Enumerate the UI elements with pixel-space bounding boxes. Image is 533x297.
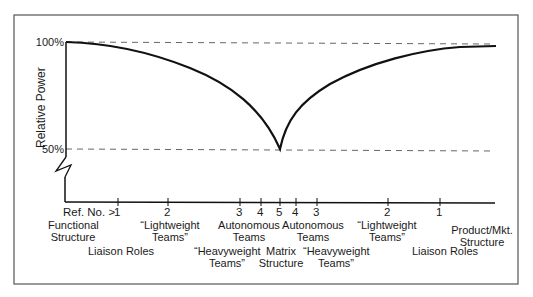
y-axis-break-icon [56, 157, 71, 177]
label-functional-structure: Functional Structure [48, 219, 98, 243]
label-heavyweight-teams-right: “Heavyweight Teams” [303, 245, 369, 269]
y-tick-100: 100% [14, 36, 64, 48]
tick-label-2-left: 2 [164, 206, 170, 218]
label-heavyweight-teams-left: “Heavyweight Teams” [194, 245, 260, 269]
label-liaison-roles-right: Liaison Roles [412, 245, 478, 257]
tick-label-3-right: 3 [313, 206, 319, 218]
relative-power-curve [66, 42, 496, 149]
tick-label-2-right: 2 [384, 206, 390, 218]
label-lightweight-teams-right: “Lightweight Teams” [357, 219, 417, 243]
y-axis-label: Relative Power [34, 67, 48, 148]
tick-label-1-left: 1 [114, 206, 120, 218]
label-lightweight-teams-left: “Lightweight Teams” [140, 219, 200, 243]
tick-label-4-left: 4 [257, 206, 263, 218]
tick-label-1-right: 1 [436, 206, 442, 218]
ref-no-label: Ref. No. > [63, 206, 115, 218]
label-autonomous-teams-left: Autonomous Teams [218, 219, 280, 243]
label-matrix-structure: Matrix Structure [256, 245, 306, 269]
tick-label-3-left: 3 [236, 206, 242, 218]
reference-line-100 [66, 42, 490, 44]
tick-label-4-right: 4 [292, 206, 298, 218]
label-liaison-roles-left: Liaison Roles [88, 245, 154, 257]
label-autonomous-teams-right: Autonomous Teams [282, 219, 344, 243]
tick-label-5: 5 [276, 206, 282, 218]
